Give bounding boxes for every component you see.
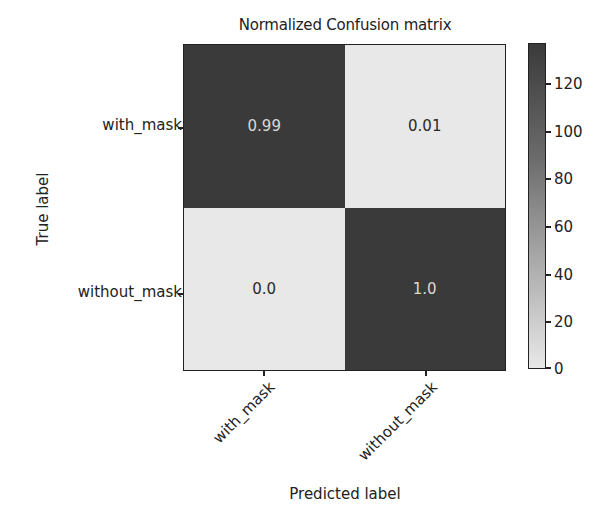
colorbar-label: 100 bbox=[554, 123, 583, 141]
colorbar-tick bbox=[546, 131, 551, 133]
confusion-matrix: 0.99 0.01 0.0 1.0 bbox=[183, 44, 506, 371]
colorbar-tick bbox=[546, 367, 551, 369]
y-axis-title: True label bbox=[34, 164, 52, 254]
colorbar-tick bbox=[546, 226, 551, 228]
y-tick-mark bbox=[178, 293, 183, 295]
colorbar-tick bbox=[546, 321, 551, 323]
x-tick-label: without_mask bbox=[354, 378, 440, 464]
cell-without-mask-without-mask: 1.0 bbox=[345, 208, 506, 371]
cell-value: 0.01 bbox=[408, 117, 441, 135]
colorbar-label: 40 bbox=[554, 266, 573, 284]
x-tick-mark bbox=[263, 371, 265, 376]
colorbar-label: 0 bbox=[554, 360, 564, 378]
colorbar-tick bbox=[546, 178, 551, 180]
colorbar bbox=[528, 43, 546, 369]
x-tick-label: with_mask bbox=[210, 378, 279, 447]
colorbar-label: 80 bbox=[554, 170, 573, 188]
x-axis-title: Predicted label bbox=[183, 485, 507, 503]
cell-with-mask-with-mask: 0.99 bbox=[184, 45, 345, 208]
chart-title: Normalized Confusion matrix bbox=[183, 16, 507, 34]
cell-value: 0.99 bbox=[248, 117, 281, 135]
y-tick-label: without_mask bbox=[78, 283, 182, 301]
y-tick-label: with_mask bbox=[102, 116, 182, 134]
colorbar-label: 20 bbox=[554, 313, 573, 331]
colorbar-label: 120 bbox=[554, 75, 583, 93]
colorbar-tick bbox=[546, 274, 551, 276]
cell-value: 0.0 bbox=[252, 280, 276, 298]
cell-value: 1.0 bbox=[413, 280, 437, 298]
colorbar-label: 60 bbox=[554, 218, 573, 236]
colorbar-tick bbox=[546, 83, 551, 85]
cell-with-mask-without-mask: 0.01 bbox=[345, 45, 506, 208]
cell-without-mask-with-mask: 0.0 bbox=[184, 208, 345, 371]
y-tick-mark bbox=[178, 127, 183, 129]
x-tick-mark bbox=[425, 371, 427, 376]
